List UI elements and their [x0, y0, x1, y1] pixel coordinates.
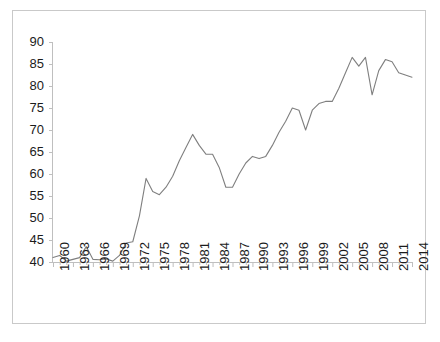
y-tick-label: 80	[18, 79, 44, 92]
y-tick-label: 85	[18, 57, 44, 70]
x-tick-label: 2011	[397, 243, 410, 271]
x-tick-label: 1963	[78, 242, 91, 271]
line-chart: 9085807570656055504540 19601963196619691…	[0, 0, 440, 342]
x-tick-label: 1972	[138, 242, 151, 271]
x-tick-label: 1987	[238, 242, 251, 271]
x-tick-label: 1981	[198, 242, 211, 271]
y-tick-label: 40	[18, 255, 44, 268]
y-tick-label: 45	[18, 233, 44, 246]
y-tick-label: 90	[18, 35, 44, 48]
x-tick-label: 1975	[158, 242, 171, 271]
x-tick-label: 1984	[218, 242, 231, 271]
x-tick-label: 2008	[377, 242, 390, 271]
x-tick-label: 1990	[257, 242, 270, 271]
x-tick-label: 1960	[58, 242, 71, 271]
y-tick-label: 50	[18, 211, 44, 224]
x-tick-label: 1966	[98, 242, 111, 271]
y-tick-label: 75	[18, 101, 44, 114]
x-tick-label: 1993	[277, 242, 290, 271]
x-tick-label: 1999	[317, 242, 330, 271]
axis-lines	[53, 42, 413, 263]
plot-svg	[0, 0, 440, 342]
x-tick-label: 2002	[337, 242, 350, 271]
x-tick-label: 1996	[297, 242, 310, 271]
y-tick-label: 70	[18, 123, 44, 136]
x-tick-label: 2005	[357, 242, 370, 271]
y-tick-label: 55	[18, 189, 44, 202]
data-series-line	[53, 57, 412, 261]
x-tick-label: 1969	[118, 242, 131, 271]
y-tick-label: 65	[18, 145, 44, 158]
x-tick-label: 2014	[417, 242, 430, 271]
x-tick-label: 1978	[178, 242, 191, 271]
y-tick-label: 60	[18, 167, 44, 180]
